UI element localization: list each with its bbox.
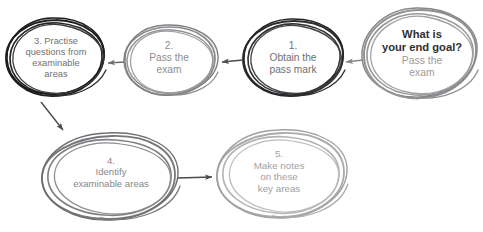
node-1-circle[interactable]: [243, 19, 345, 96]
connector-node3-to-node4: [41, 102, 63, 130]
connector-node2-to-node3: [108, 62, 124, 63]
node-4-circle[interactable]: [42, 133, 180, 220]
sketch-strokes: [0, 0, 483, 232]
node-3-circle[interactable]: [6, 18, 106, 96]
connector-node4-to-node5: [178, 177, 212, 178]
connector-goal-to-node1: [346, 60, 363, 62]
goal-circle[interactable]: [362, 8, 478, 99]
node-5-circle[interactable]: [217, 130, 348, 218]
node-2-circle[interactable]: [124, 25, 218, 95]
connector-node1-to-node2: [222, 60, 243, 62]
diagram-canvas: 3. Practise questions from examinable ar…: [0, 0, 483, 232]
